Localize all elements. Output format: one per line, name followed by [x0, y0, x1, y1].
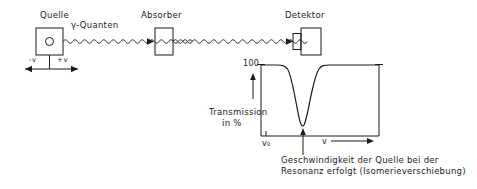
caption-line-2: Resonanz erfolgt (Isomerieverschiebung) — [281, 166, 466, 176]
chart-xlabel: v — [322, 137, 327, 146]
velocity-positive-label: +v — [57, 56, 68, 64]
gamma-arrow-into-absorber — [147, 38, 154, 44]
velocity-arrow-left — [25, 66, 32, 72]
detector-body — [301, 28, 321, 55]
caption-line-1: Geschwindigkeit der Quelle bei der — [281, 155, 439, 165]
gamma-quanta-label: γ-Quanten — [71, 20, 118, 30]
velocity-arrow-right — [71, 66, 78, 72]
chart-ylabel-line2: in % — [222, 118, 242, 128]
chart-ytick-label-100: 100 — [243, 59, 259, 68]
chart-xtick-label-v0: v₀ — [262, 139, 271, 148]
x-axis-direction-arrow — [367, 138, 374, 144]
absorber-label: Absorber — [141, 10, 182, 20]
detector-label: Detektor — [285, 10, 325, 20]
y-axis-direction-arrow — [250, 73, 256, 80]
source-emitter-icon — [46, 38, 54, 46]
source-label: Quelle — [40, 10, 69, 20]
source-box — [36, 28, 63, 55]
velocity-negative-label: -v — [29, 56, 37, 64]
resonance-callout-arrow — [300, 128, 306, 135]
gamma-arrow-into-detector — [286, 38, 293, 44]
transmission-curve — [261, 65, 379, 126]
detector-window — [293, 34, 301, 50]
mossbauer-diagram-page: Quelle γ-Quanten Absorber Detektor -v +v… — [0, 0, 477, 189]
chart-ylabel-line1: Transmission — [209, 107, 268, 117]
